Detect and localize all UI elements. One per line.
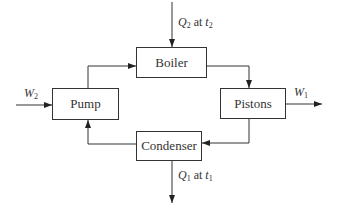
boiler-to-pistons-arrow xyxy=(207,66,249,88)
work-in-label: W2 xyxy=(24,86,38,101)
boiler-label: Boiler xyxy=(155,55,188,71)
condenser-label: Condenser xyxy=(141,138,197,154)
boiler-box: Boiler xyxy=(136,47,207,78)
pistons-label: Pistons xyxy=(234,96,272,112)
pistons-to-condenser-arrow xyxy=(202,119,249,143)
pump-label: Pump xyxy=(70,96,100,112)
condenser-box: Condenser xyxy=(136,131,202,161)
pump-to-boiler-arrow xyxy=(88,66,136,88)
pistons-box: Pistons xyxy=(220,88,286,119)
connector-lines xyxy=(0,0,338,215)
heat-in-label: Q2 at t2 xyxy=(178,15,213,30)
condenser-to-pump-arrow xyxy=(88,120,136,144)
pump-box: Pump xyxy=(52,88,119,120)
heat-engine-cycle-diagram: Boiler Pistons Condenser Pump Q2 at t2 Q… xyxy=(0,0,338,215)
work-out-label: W1 xyxy=(294,85,308,100)
heat-out-label: Q1 at t1 xyxy=(178,168,213,183)
